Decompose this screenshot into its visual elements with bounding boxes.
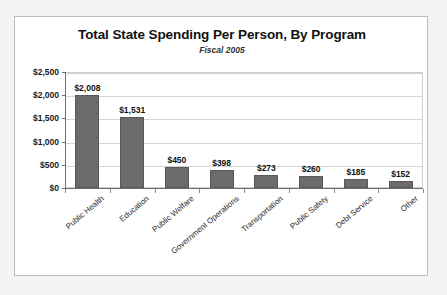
bar[interactable] — [210, 170, 234, 188]
y-axis-tick-label: $2,000 — [11, 90, 59, 100]
x-axis-category-label: Public Health — [24, 194, 106, 265]
x-axis-category-label: Other — [337, 194, 419, 265]
x-axis-tick-mark — [244, 189, 245, 193]
bar[interactable] — [344, 179, 368, 188]
x-axis-tick-mark — [110, 189, 111, 193]
x-axis-category-label: Education — [69, 194, 151, 265]
x-axis-tick-mark — [289, 189, 290, 193]
bar[interactable] — [254, 175, 278, 188]
y-axis-tick-mark — [62, 142, 66, 143]
bar-value-label: $1,531 — [102, 105, 162, 115]
y-axis-tick-label: $2,500 — [11, 67, 59, 77]
chart-subtitle: Fiscal 2005 — [15, 45, 429, 55]
gridline — [66, 96, 422, 97]
y-axis-tick-mark — [62, 72, 66, 73]
y-axis-tick-mark — [62, 95, 66, 96]
chart-frame: Total State Spending Per Person, By Prog… — [14, 16, 428, 276]
y-axis-tick-label: $500 — [11, 160, 59, 170]
bar[interactable] — [120, 117, 144, 188]
page-background: Total State Spending Per Person, By Prog… — [0, 0, 447, 295]
x-axis-tick-mark — [65, 189, 66, 193]
y-axis-tick-mark — [62, 118, 66, 119]
chart-title: Total State Spending Per Person, By Prog… — [15, 27, 429, 42]
x-axis-tick-mark — [378, 189, 379, 193]
x-axis-category-label: Public Safety — [248, 194, 330, 265]
bar[interactable] — [389, 181, 413, 188]
x-axis-category-label: Transportation — [203, 194, 285, 265]
x-axis-tick-mark — [155, 189, 156, 193]
bar[interactable] — [75, 95, 99, 188]
x-axis-category-label: Government Operations — [158, 194, 240, 265]
x-axis-category-label: Debt Service — [292, 194, 374, 265]
y-axis-tick-mark — [62, 165, 66, 166]
x-axis-tick-mark — [334, 189, 335, 193]
bar-value-label: $2,008 — [57, 83, 117, 93]
y-axis-tick-label: $0 — [11, 183, 59, 193]
gridline — [66, 73, 422, 74]
x-axis-tick-mark — [199, 189, 200, 193]
x-axis-category-label: Public Welfare — [113, 194, 195, 265]
y-axis-tick-label: $1,500 — [11, 113, 59, 123]
x-axis-tick-mark — [423, 189, 424, 193]
bar-value-label: $152 — [371, 169, 431, 179]
y-axis-tick-label: $1,000 — [11, 137, 59, 147]
bar[interactable] — [165, 167, 189, 188]
bar[interactable] — [299, 176, 323, 188]
